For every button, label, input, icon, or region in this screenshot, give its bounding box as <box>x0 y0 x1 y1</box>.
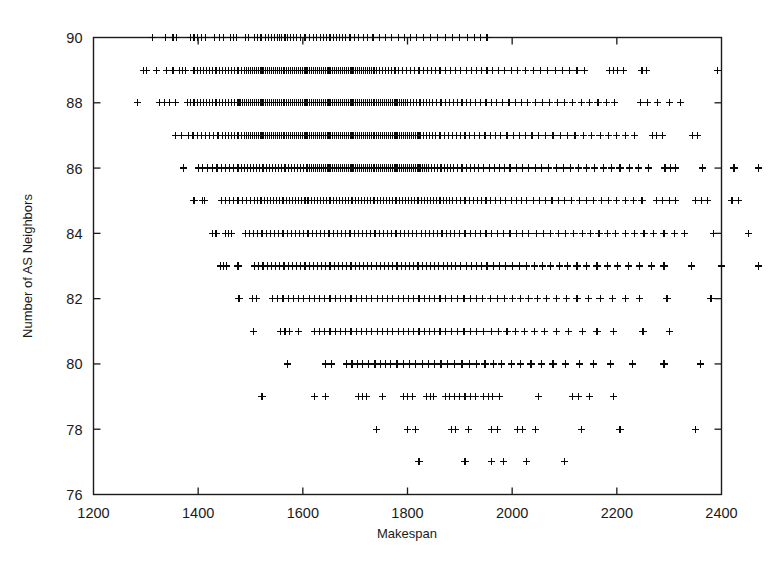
series-y=88 <box>134 99 684 106</box>
series-y=81 <box>250 328 673 335</box>
series-y=78 <box>373 426 699 433</box>
x-tick-label-2000: 2000 <box>496 505 528 521</box>
series-y=89 <box>140 67 721 74</box>
y-tick-label-86: 86 <box>66 161 82 177</box>
x-tick-label-1800: 1800 <box>391 505 423 521</box>
series-y=82 <box>235 295 714 302</box>
y-tick-label-84: 84 <box>66 226 82 242</box>
series-y=85 <box>190 197 741 204</box>
series-y=83 <box>217 262 762 269</box>
y-tick-label-82: 82 <box>66 291 82 307</box>
series-y=90 <box>149 34 491 41</box>
series-y=77 <box>415 458 568 465</box>
scatter-plot-figure: 1200140016001800200022002400 76788082848… <box>0 0 769 567</box>
series-y=86 <box>180 164 762 171</box>
y-tick-label-88: 88 <box>66 95 82 111</box>
x-tick-label-2400: 2400 <box>705 505 737 521</box>
scatter-markers-group <box>134 34 762 466</box>
series-y=87 <box>172 132 701 139</box>
y-tick-label-90: 90 <box>66 30 82 46</box>
y-axis-tick-labels: 7678808284868890 <box>66 30 82 503</box>
plot-canvas: 1200140016001800200022002400 76788082848… <box>0 0 769 567</box>
series-y=80 <box>284 360 705 367</box>
x-tick-label-2200: 2200 <box>601 505 633 521</box>
y-tick-label-80: 80 <box>66 356 82 372</box>
series-y=79 <box>258 393 617 400</box>
x-tick-label-1600: 1600 <box>287 505 319 521</box>
x-tick-label-1400: 1400 <box>182 505 214 521</box>
series-y=84 <box>209 230 752 237</box>
y-tick-label-76: 76 <box>66 487 82 503</box>
y-tick-label-78: 78 <box>66 422 82 438</box>
x-axis-title: Makespan <box>377 526 437 541</box>
x-tick-label-1200: 1200 <box>77 505 109 521</box>
x-axis-tick-labels: 1200140016001800200022002400 <box>77 505 737 521</box>
y-axis-title: Number of AS Neighbors <box>20 194 35 338</box>
